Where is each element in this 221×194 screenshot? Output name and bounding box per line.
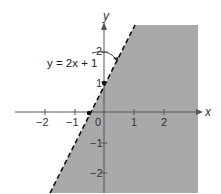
shaded-region xyxy=(50,25,198,193)
x-tick-label: 1 xyxy=(131,116,137,128)
x-tick-label: −2 xyxy=(36,116,49,128)
x-tick-label: −1 xyxy=(66,116,79,128)
y-axis-label: y xyxy=(102,9,110,23)
equation-label: y = 2x + 1 xyxy=(47,57,98,69)
x-axis-arrow-icon xyxy=(196,109,203,115)
inequality-graph: x y −2 −1 0 1 2 2 1 −1 −2 y = 2x + 1 xyxy=(0,0,221,194)
x-tick-label: 0 xyxy=(95,116,101,128)
x-axis-label: x xyxy=(204,105,212,119)
y-tick-label: 1 xyxy=(96,77,102,89)
y-tick-label: −1 xyxy=(90,137,103,149)
x-tick-label: 2 xyxy=(161,116,167,128)
y-tick-label: −2 xyxy=(90,167,103,179)
y-axis-arrow-icon xyxy=(101,22,107,30)
x-intercept-point xyxy=(87,111,91,115)
y-intercept-point xyxy=(102,81,106,85)
y-tick-label: 2 xyxy=(96,45,102,57)
pointer-arrowhead-icon xyxy=(113,57,118,62)
